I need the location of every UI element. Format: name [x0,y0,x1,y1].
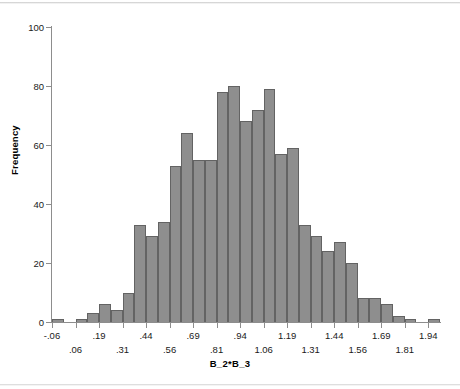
x-axis-tick [146,323,147,328]
x-axis-tick [99,323,100,328]
x-axis-tick-label: 1.94 [419,330,438,341]
histogram-bar [181,133,193,322]
histogram-bar [275,154,287,322]
histogram-bar [99,304,111,322]
histogram-bar [287,148,299,322]
x-axis-tick-label: 1.81 [395,344,414,355]
histogram-bar [322,251,334,322]
histogram-bar [111,310,123,322]
histogram-bar [369,298,381,322]
x-axis-line [51,322,441,323]
x-axis-tick-label: .69 [186,330,199,341]
x-axis-tick-label: .94 [234,330,247,341]
x-axis-tick [217,323,218,328]
x-axis-tick-label: .19 [92,330,105,341]
x-axis-tick-label: .06 [69,344,82,355]
x-axis-tick-label: 1.19 [278,330,297,341]
y-axis-tick [46,263,51,264]
histogram-bar [311,236,323,322]
histogram-figure: Frequency 020406080100 -.06.06.19.31.44.… [0,0,460,389]
x-axis-tick-label: .56 [163,344,176,355]
x-axis-tick [123,323,124,328]
x-axis-tick [264,323,265,328]
y-axis-tick [46,322,51,323]
histogram-bar [205,160,217,322]
histogram-bar [134,225,146,322]
x-axis-tick [287,323,288,328]
y-axis-tick-label: 40 [33,199,44,210]
x-axis-title: B_2*B_3 [0,358,460,369]
x-axis-tick [170,323,171,328]
histogram-bar [381,304,393,322]
plot-area [52,27,440,322]
y-axis-tick-label: 100 [28,22,44,33]
x-axis-tick [240,323,241,328]
x-axis-tick [193,323,194,328]
histogram-bar [123,293,135,323]
y-axis-tick-label: 80 [33,81,44,92]
y-axis-tick-label: 20 [33,258,44,269]
histogram-bar [76,319,88,322]
histogram-bar [334,242,346,322]
histogram-bar [170,166,182,322]
histogram-bar [217,92,229,322]
histogram-bar [228,86,240,322]
figure-top-border [0,2,460,4]
histogram-bar [87,313,99,322]
x-axis-tick [381,323,382,328]
x-axis-tick [311,323,312,328]
y-axis-tick-label: 0 [39,317,44,328]
histogram-bar [158,222,170,322]
histogram-bar [146,236,158,322]
x-axis-tick-label: 1.06 [254,344,273,355]
histogram-bar [52,319,64,322]
y-axis-tick-label: 60 [33,140,44,151]
x-axis-tick-label: 1.69 [372,330,391,341]
figure-bottom-border [0,384,460,386]
x-axis-tick-label: 1.56 [348,344,367,355]
x-axis-tick-label: -.06 [44,330,60,341]
histogram-bar [299,225,311,322]
histogram-bar [240,121,252,322]
y-axis-tick [46,145,51,146]
histogram-bar [405,319,417,322]
histogram-bar [252,110,264,322]
histogram-bar [346,263,358,322]
y-axis-title: Frequency [9,125,20,175]
histogram-bar [393,316,405,322]
x-axis-tick-label: .44 [139,330,152,341]
y-axis-tick [46,27,51,28]
x-axis-tick [428,323,429,328]
x-axis-tick [358,323,359,328]
x-axis-tick-label: .81 [210,344,223,355]
y-axis-tick [46,204,51,205]
x-axis-tick [334,323,335,328]
histogram-bar [358,298,370,322]
x-axis-tick-label: 1.31 [301,344,320,355]
x-axis-tick [76,323,77,328]
histogram-bar [193,160,205,322]
y-axis-tick [46,86,51,87]
histogram-bar [428,319,440,322]
x-axis-tick-label: 1.44 [325,330,344,341]
histogram-bar [264,89,276,322]
x-axis-tick [405,323,406,328]
x-axis-tick [52,323,53,328]
x-axis-tick-label: .31 [116,344,129,355]
